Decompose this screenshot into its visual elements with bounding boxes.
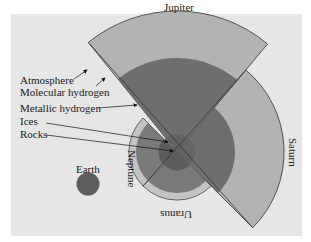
molecular-hydrogen-label: Molecular hydrogen <box>20 86 110 98</box>
earth-label: Earth <box>76 163 100 175</box>
rocks-label: Rocks <box>20 128 48 140</box>
earth-circle <box>77 173 100 196</box>
neptune-label: Neptune <box>126 150 138 187</box>
metallic-hydrogen-label: Metallic hydrogen <box>20 102 101 114</box>
atmosphere-label: Atmosphere <box>20 74 74 86</box>
saturn-label: Saturn <box>287 138 299 167</box>
giant-planets-interior-diagram: Earth Jupiter Saturn Uranus Neptune Atmo… <box>0 0 311 242</box>
uranus-label: Uranus <box>160 209 192 221</box>
jupiter-label: Jupiter <box>164 1 194 13</box>
ices-label: Ices <box>20 115 38 127</box>
